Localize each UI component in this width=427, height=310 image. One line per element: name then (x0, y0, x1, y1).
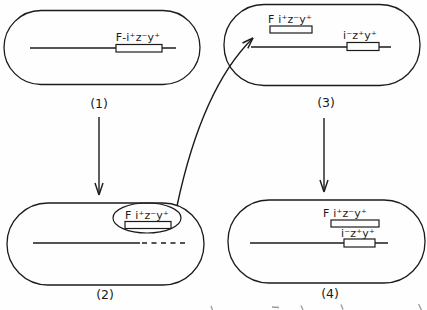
arrow-1-to-2 (95, 117, 103, 195)
cell-1-gene-label: F-i⁺z⁻y⁺ (116, 31, 161, 44)
cell-3-plasmid-gene-box (270, 26, 312, 33)
cell-4-chromosome-label: i⁻z⁺y⁺ (341, 227, 375, 240)
step-label-1: (1) (90, 96, 108, 111)
cell-4-chromosome-gene-box (344, 239, 375, 247)
step-label-2: (2) (96, 287, 114, 302)
step-label-3: (3) (317, 95, 335, 110)
cropped-caption-fragments (211, 304, 422, 310)
step-label-4: (4) (321, 286, 339, 301)
transfer-arrow-2-to-3 (177, 38, 253, 206)
cell-3-chromosome-label: i⁻z⁺y⁺ (343, 29, 377, 42)
cell-2-outline (7, 203, 204, 285)
cell-4-plasmid-label: F i⁺z⁻y⁺ (323, 207, 367, 220)
cell-2-plasmid-label: F i⁺z⁻y⁺ (125, 209, 169, 222)
cell-2-plasmid-gene-box (125, 222, 171, 229)
transfer-arrow-curve (177, 38, 253, 206)
cell-3-outline (224, 5, 420, 86)
arrow-3-to-4 (320, 118, 328, 192)
cell-1-gene-box (116, 45, 162, 53)
figure-canvas: F-i⁺z⁻y⁺ (1) F i⁺z⁻y⁺ i⁻z⁺y⁺ (3) F i⁺z⁻y… (0, 0, 427, 310)
cell-3-chromosome-gene-box (347, 43, 379, 51)
genetics-diagram: F-i⁺z⁻y⁺ (1) F i⁺z⁻y⁺ i⁻z⁺y⁺ (3) F i⁺z⁻y… (0, 0, 427, 310)
cell-3-plasmid-label: F i⁺z⁻y⁺ (268, 13, 312, 26)
